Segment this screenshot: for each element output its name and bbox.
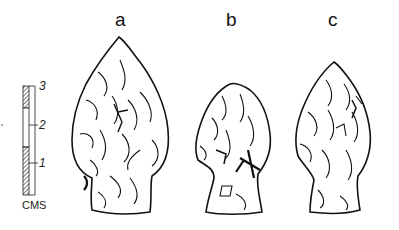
projectile-point-a: [72, 37, 168, 214]
scale-tick-2: 2: [39, 119, 46, 131]
figure-drawing: [0, 0, 399, 230]
projectile-point-b: [196, 83, 270, 214]
scale-tick-3: 3: [39, 80, 46, 92]
projectile-point-c: [296, 62, 370, 213]
scale-bar: [1, 86, 38, 195]
scale-tick-1: 1: [39, 157, 46, 169]
scale-unit-label: CMS: [22, 200, 46, 211]
